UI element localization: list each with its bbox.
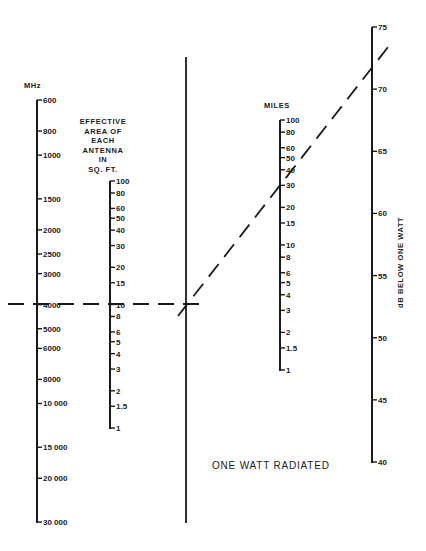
antenna-area-tick-label: 50 [116, 214, 125, 223]
loss-tick-label: 65 [378, 147, 387, 156]
chart-caption: ONE WATT RADIATED [212, 460, 330, 471]
frequency-tick-label: 1000 [43, 151, 61, 160]
loss-axis: 7570656055504540 dB BELOW ONE WATT [372, 23, 405, 467]
nomograph: MHz 600800100015002000250030004000500060… [0, 0, 426, 551]
distance-tick-label: 1 [286, 366, 291, 375]
loss-tick-label: 70 [378, 85, 387, 94]
antenna-area-title-line: ANTENNA [83, 146, 124, 155]
distance-tick-label: 1.5 [286, 344, 298, 353]
distance-axis-title: MILES [264, 101, 290, 110]
distance-tick-label: 5 [286, 279, 291, 288]
frequency-tick-label: 10 000 [43, 399, 68, 408]
antenna-area-tick-label: 6 [116, 328, 121, 337]
distance-tick-label: 4 [286, 291, 291, 300]
frequency-tick-label: 8000 [43, 375, 61, 384]
antenna-area-title-line: IN [99, 155, 108, 164]
antenna-area-title-line: AREA OF [84, 127, 122, 136]
antenna-area-axis-title: EFFECTIVEAREA OFEACHANTENNAINSQ. FT. [80, 117, 127, 174]
antenna-area-tick-label: 80 [116, 189, 125, 198]
distance-tick-label: 60 [286, 144, 295, 153]
distance-tick-label: 10 [286, 241, 295, 250]
distance-tick-label: 80 [286, 128, 295, 137]
frequency-tick-label: 3000 [43, 270, 61, 279]
distance-tick-label: 20 [286, 203, 295, 212]
loss-tick-label: 55 [378, 272, 387, 281]
frequency-tick-label: 6000 [43, 344, 61, 353]
frequency-tick-label: 800 [43, 127, 57, 136]
distance-tick-label: 3 [286, 306, 291, 315]
antenna-area-axis: EFFECTIVEAREA OFEACHANTENNAINSQ. FT. 100… [80, 117, 130, 433]
antenna-area-tick-label: 8 [116, 312, 121, 321]
frequency-tick-label: 30 000 [43, 518, 68, 527]
antenna-area-title-line: SQ. FT. [88, 165, 118, 174]
antenna-area-tick-label: 100 [116, 177, 130, 186]
loss-tick-label: 60 [378, 209, 387, 218]
loss-tick-label: 50 [378, 334, 387, 343]
distance-tick-label: 100 [286, 116, 300, 125]
antenna-area-tick-label: 10 [116, 301, 125, 310]
frequency-tick-label: 20 000 [43, 474, 68, 483]
antenna-area-tick-label: 40 [116, 226, 125, 235]
loss-axis-title: dB BELOW ONE WATT [396, 217, 405, 308]
antenna-area-tick-label: 3 [116, 365, 121, 374]
frequency-axis-title: MHz [24, 81, 41, 90]
antenna-area-tick-label: 60 [116, 204, 125, 213]
distance-tick-label: 30 [286, 181, 295, 190]
antenna-area-tick-label: 20 [116, 263, 125, 272]
frequency-tick-label: 1500 [43, 195, 61, 204]
loss-tick-label: 75 [378, 23, 387, 32]
frequency-tick-label: 15 000 [43, 443, 68, 452]
frequency-tick-label: 600 [43, 96, 57, 105]
antenna-area-tick-label: 1 [116, 424, 121, 433]
frequency-tick-label: 2500 [43, 250, 61, 259]
antenna-area-tick-label: 30 [116, 242, 125, 251]
example-construction-lines [8, 42, 392, 316]
antenna-area-tick-label: 15 [116, 279, 125, 288]
distance-tick-label: 8 [286, 253, 291, 262]
distance-tick-label: 15 [286, 219, 295, 228]
antenna-area-tick-label: 4 [116, 350, 121, 359]
antenna-area-title-line: EACH [91, 136, 115, 145]
antenna-area-tick-label: 1.5 [116, 402, 128, 411]
antenna-area-tick-label: 5 [116, 338, 121, 347]
frequency-tick-label: 2000 [43, 226, 61, 235]
distance-tick-label: 6 [286, 269, 291, 278]
antenna-area-title-line: EFFECTIVE [80, 117, 127, 126]
frequency-tick-label: 4000 [43, 301, 61, 310]
antenna-area-tick-label: 2 [116, 387, 121, 396]
distance-tick-label: 2 [286, 328, 291, 337]
distance-axis: MILES 10080605040302015108654321.51 [264, 101, 300, 375]
frequency-tick-label: 5000 [43, 325, 61, 334]
distance-tick-label: 50 [286, 154, 295, 163]
loss-tick-label: 40 [378, 458, 387, 467]
loss-tick-label: 45 [378, 396, 387, 405]
